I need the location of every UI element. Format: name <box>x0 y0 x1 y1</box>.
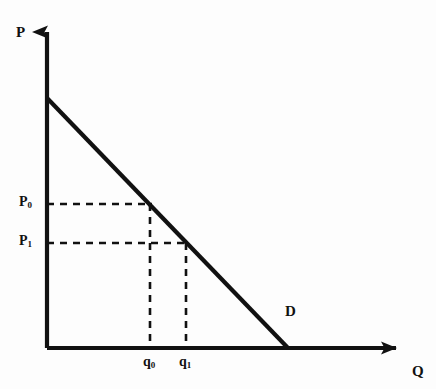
quantity-label-q0: q0 <box>143 355 155 369</box>
price-label-p0: P0 <box>19 195 32 209</box>
quantity-label-q0-subscript: 0 <box>151 360 156 370</box>
demand-curve <box>47 98 288 348</box>
price-label-p1: P1 <box>19 234 32 248</box>
quantity-label-q1: q1 <box>179 355 191 369</box>
diagram-canvas <box>0 0 436 389</box>
demand-curve-label: D <box>285 304 296 319</box>
quantity-label-q1-subscript: 1 <box>187 360 192 370</box>
demand-curve-figure: P Q P0 P1 q0 q1 D <box>0 0 436 389</box>
price-label-p0-subscript: 0 <box>28 200 33 210</box>
quantity-label-q1-base: q <box>179 354 187 369</box>
price-label-p1-base: P <box>19 233 28 248</box>
price-axis-label: P <box>16 25 25 40</box>
quantity-label-q0-base: q <box>143 354 151 369</box>
price-label-p1-subscript: 1 <box>28 239 33 249</box>
price-label-p0-base: P <box>19 194 28 209</box>
quantity-axis-label: Q <box>412 364 424 379</box>
